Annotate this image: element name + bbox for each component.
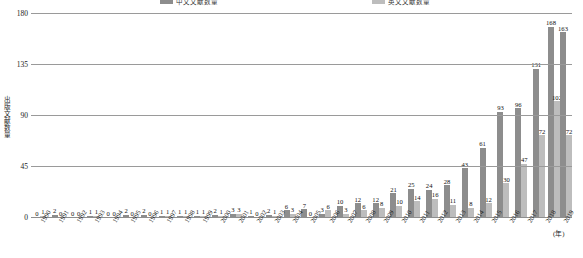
bar-value-label: 8 [469, 200, 472, 207]
bar-value-label: 8 [380, 200, 383, 207]
gridline [31, 115, 572, 116]
bar: 14 [414, 201, 420, 217]
bar: 11 [450, 205, 456, 217]
bar: 72 [539, 135, 545, 217]
legend-swatch-series-1 [160, 0, 173, 4]
x-axis-tick: 2000 [211, 219, 229, 249]
bar-value-label: 21 [390, 186, 397, 193]
y-axis-tick-label: 0 [24, 213, 28, 222]
x-axis-tick: 2012 [428, 219, 446, 249]
x-axis-tick: 1992 [67, 219, 85, 249]
bar-value-label: 6 [327, 203, 330, 210]
bar-value-label: 47 [521, 156, 528, 163]
y-axis-tick-label: 45 [21, 162, 29, 171]
gridline [31, 13, 572, 14]
bar-value-label: 1 [160, 208, 163, 215]
bar-value-label: 11 [450, 197, 456, 204]
bar-value-label: 12 [485, 196, 492, 203]
y-axis-tick-label: 135 [17, 60, 28, 69]
bar-value-label: 1 [178, 208, 181, 215]
bar-value-label: 14 [414, 194, 421, 201]
legend-item-series-1: 中文文献数量 [160, 0, 218, 6]
gridline [31, 64, 572, 65]
bar: 12 [486, 203, 492, 217]
bar-value-label: 24 [426, 182, 433, 189]
legend-label-series-2: 英文文献数量 [388, 0, 430, 6]
bar: 72 [566, 135, 572, 217]
x-axis-tick: 1999 [193, 219, 211, 249]
x-axis-tick: 1997 [157, 219, 175, 249]
x-axis-tick: 2006 [320, 219, 338, 249]
bar-value-label: 28 [444, 178, 451, 185]
y-axis-tick-label: 180 [17, 9, 28, 18]
legend-label-series-1: 中文文献数量 [176, 0, 218, 6]
bar-value-label: 3 [237, 206, 240, 213]
x-axis-unit: (年) [553, 228, 565, 238]
x-axis-tick: 1998 [175, 219, 193, 249]
x-axis-tick: 2009 [374, 219, 392, 249]
chart-legend: 中文文献数量 英文文献数量 [0, 0, 583, 8]
legend-swatch-series-2 [372, 0, 385, 4]
x-axis-tick: 2011 [410, 219, 428, 249]
bar-value-label: 3 [291, 206, 294, 213]
plot-area: 0120001100202011111121331021637036103126… [31, 13, 572, 218]
bar-value-label: 12 [372, 196, 379, 203]
bar: 8 [468, 208, 474, 217]
legend-item-series-2: 英文文献数量 [372, 0, 430, 6]
bar-value-label: 10 [337, 198, 344, 205]
gridline [31, 166, 572, 167]
bar-value-label: 2 [53, 207, 56, 214]
y-axis-title: 出版文献数量 [0, 96, 10, 138]
bar-value-label: 10 [396, 198, 403, 205]
bar: 30 [503, 183, 509, 217]
bar-value-label: 25 [408, 181, 415, 188]
x-axis-tick: 2001 [229, 219, 247, 249]
x-axis-tick: 1990 [31, 219, 49, 249]
x-axis-tick: 2004 [283, 219, 301, 249]
x-axis-tick: 1994 [103, 219, 121, 249]
bar-value-label: 3 [344, 206, 347, 213]
publication-count-bar-chart: 中文文献数量 英文文献数量 出版文献数量 0120001100202011111… [0, 0, 583, 258]
bar-value-label: 2 [142, 207, 145, 214]
bar-value-label: 30 [503, 176, 510, 183]
bar: 47 [521, 164, 527, 217]
bar-value-label: 61 [479, 140, 486, 147]
bar-value-label: 72 [539, 128, 546, 135]
bar-value-label: 6 [362, 203, 365, 210]
bar-value-label: 2 [124, 207, 127, 214]
bar-value-label: 72 [566, 128, 573, 135]
bar-value-label: 0 [107, 210, 110, 217]
x-axis-tick: 2003 [265, 219, 283, 249]
bar-value-label: 2 [214, 207, 217, 214]
x-axis-tick: 2016 [500, 219, 518, 249]
x-axis-tick: 1996 [139, 219, 157, 249]
x-axis-labels: 1990199119921993199419951996199719981999… [31, 219, 572, 249]
bar: 16 [432, 199, 438, 217]
x-axis-tick: 2005 [301, 219, 319, 249]
x-axis-tick: 1995 [121, 219, 139, 249]
x-axis-tick: 1993 [85, 219, 103, 249]
x-axis-tick: 2010 [392, 219, 410, 249]
x-axis-tick: 2017 [518, 219, 536, 249]
bar-value-label: 12 [355, 196, 362, 203]
bar-value-label: 6 [285, 203, 288, 210]
bar-value-label: 1 [89, 208, 92, 215]
bar-value-label: 96 [515, 101, 522, 108]
bar-value-label: 168 [546, 19, 556, 26]
bar-value-label: 16 [432, 191, 439, 198]
x-axis-tick: 1991 [49, 219, 67, 249]
bar-value-label: 0 [35, 210, 38, 217]
bar-value-label: 163 [558, 25, 568, 32]
x-axis-tick: 2015 [482, 219, 500, 249]
bar-value-label: 93 [497, 104, 504, 111]
x-axis-tick: 2014 [464, 219, 482, 249]
x-axis-tick: 2002 [247, 219, 265, 249]
bar-value-label: 0 [71, 210, 74, 217]
x-axis-tick: 2018 [536, 219, 554, 249]
x-axis-tick: 2008 [356, 219, 374, 249]
x-axis-tick: 2007 [338, 219, 356, 249]
y-axis-tick-label: 90 [21, 111, 29, 120]
bar-value-label: 7 [303, 202, 306, 209]
x-axis-tick: 2013 [446, 219, 464, 249]
